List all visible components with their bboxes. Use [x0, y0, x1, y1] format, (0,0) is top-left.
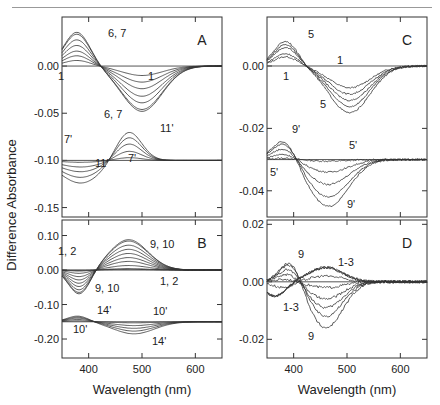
curve-annotation: 9 [298, 248, 304, 260]
curve-annotation: 9 [308, 330, 314, 342]
curve-annotation: 11' [160, 122, 174, 134]
y-tick-label: 0.00 [243, 276, 264, 288]
y-tick-label: 0.00 [243, 60, 264, 72]
spectrum-5 [62, 40, 222, 103]
y-tick-label: 0.02 [243, 218, 264, 230]
x-tick-label: 600 [391, 363, 409, 375]
curve-annotation: 1-3 [338, 256, 354, 268]
curve-annotation: 10' [153, 305, 167, 317]
spectrum-1 [267, 56, 427, 88]
curve-annotation: 7' [128, 152, 136, 164]
panel-letter: B [197, 235, 206, 251]
x-tick-label: 400 [79, 363, 97, 375]
figure: Difference Absorbance Wavelength (nm) Wa… [0, 0, 440, 405]
curve-annotation: 6, 7 [104, 108, 122, 120]
x-axis-label-left: Wavelength (nm) [93, 382, 192, 397]
y-tick-label: -0.15 [34, 202, 59, 214]
spectrum-7 [62, 249, 222, 286]
curve-annotation: 1 [283, 70, 289, 82]
curve-annotation: 10' [73, 323, 87, 335]
y-tick-label: -0.10 [34, 154, 59, 166]
curve-annotation: 14' [152, 335, 166, 347]
curve-annotation: 1 [148, 70, 154, 82]
panel-letter: C [402, 32, 412, 48]
spectrum-6 [62, 254, 222, 284]
x-axis-label-right: Wavelength (nm) [298, 382, 397, 397]
y-tick-label: 0.10 [38, 230, 59, 242]
x-tick-label: 600 [186, 363, 204, 375]
spectrum-5 [267, 41, 427, 113]
spectrum-9' [62, 144, 222, 172]
spectrum-1 [62, 61, 222, 76]
curve-annotation: 1, 2 [58, 245, 76, 257]
curve-annotation: 1 [58, 70, 64, 82]
spectrum-8' [267, 144, 427, 198]
y-tick-label: 0.00 [38, 264, 59, 276]
curve-annotation: 5 [308, 28, 314, 40]
curve-annotation: 1-3 [283, 301, 299, 313]
x-tick-label: 500 [133, 363, 151, 375]
panel-letter: D [402, 235, 412, 251]
y-tick-label: 0.00 [38, 60, 59, 72]
spectrum-11' [62, 133, 222, 184]
curve-annotation: 7' [64, 133, 72, 145]
x-tick-label: 500 [338, 363, 356, 375]
panel-c: 0.00-0.02-0.04C51159'5'5'9' [239, 17, 427, 217]
x-tick-label: 400 [284, 363, 302, 375]
curve-annotation: 6, 7 [108, 27, 126, 39]
y-tick-label: -0.04 [239, 185, 264, 197]
spectrum-2 [267, 54, 427, 95]
spectrum-2 [62, 56, 222, 82]
y-tick-label: -0.02 [239, 333, 264, 345]
panel-d: 4005006000.020.00-0.02D91-31-39 [239, 218, 427, 375]
spectrum-4 [267, 44, 427, 107]
y-tick-label: -0.20 [34, 333, 59, 345]
curve-annotation: 9, 10 [150, 238, 174, 250]
curve-annotation: 1 [337, 54, 343, 66]
curve-annotation: 5' [349, 139, 357, 151]
y-tick-label: -0.02 [239, 122, 264, 134]
curve-annotation: 9, 10 [95, 282, 119, 294]
y-tick-label: -0.05 [34, 107, 59, 119]
spectrum-9 [267, 263, 427, 328]
curve-annotation: 14' [97, 304, 111, 316]
panel-b: 4005006000.100.00-0.10-0.20B9, 101, 29, … [34, 220, 222, 375]
spectrum-5 [267, 279, 427, 289]
curve-annotation: 1, 2 [160, 275, 178, 287]
spectrum-6' [267, 154, 427, 172]
curve-annotation: 5 [320, 98, 326, 110]
spectrum-6 [267, 274, 427, 300]
curve-annotation: 11' [95, 157, 109, 169]
panel-a: 0.00-0.05-0.10-0.15A6, 7116, 77'11'11'7' [34, 17, 222, 217]
curve-annotation: 5' [270, 166, 278, 178]
curve-annotation: 9' [347, 198, 355, 210]
curve-annotation: 9' [292, 123, 300, 135]
spectrum-3 [62, 51, 222, 89]
y-axis-label: Difference Absorbance [4, 139, 19, 270]
panel-letter: A [197, 32, 207, 48]
y-tick-label: -0.10 [34, 299, 59, 311]
